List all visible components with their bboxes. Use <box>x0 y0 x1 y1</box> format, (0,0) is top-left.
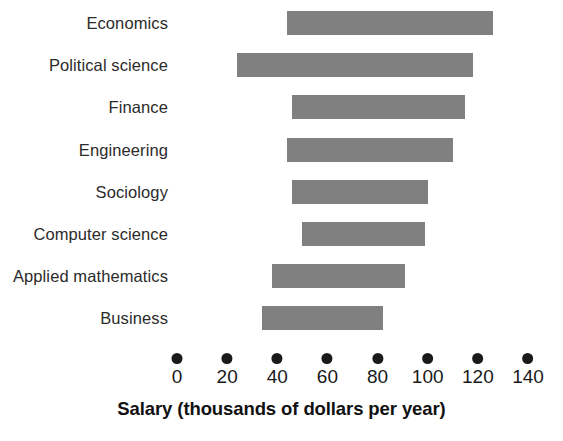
tick-dot-icon <box>522 353 533 364</box>
bar-row: Economics <box>0 2 563 44</box>
bar-row: Applied mathematics <box>0 255 563 297</box>
tick-dot-icon <box>422 353 433 364</box>
bar-business <box>262 306 382 330</box>
tick-dot-icon <box>172 353 183 364</box>
category-label: Finance <box>109 98 168 117</box>
category-label: Business <box>100 309 168 328</box>
x-tick: 140 <box>512 350 544 388</box>
category-label: Engineering <box>79 140 168 159</box>
bar-engineering <box>287 138 452 162</box>
tick-dot-icon <box>222 353 233 364</box>
x-tick: 120 <box>462 350 494 388</box>
category-label: Sociology <box>96 182 168 201</box>
bar-row: Business <box>0 297 563 339</box>
bar-sociology <box>292 180 427 204</box>
x-tick-label: 40 <box>267 366 288 388</box>
x-tick: 40 <box>267 350 288 388</box>
x-tick-label: 140 <box>512 366 544 388</box>
tick-dot-icon <box>372 353 383 364</box>
bar-row: Finance <box>0 86 563 128</box>
x-tick: 80 <box>367 350 388 388</box>
x-tick-label: 80 <box>367 366 388 388</box>
x-tick: 100 <box>412 350 444 388</box>
tick-dot-icon <box>272 353 283 364</box>
category-label: Economics <box>86 14 168 33</box>
x-tick-label: 60 <box>317 366 338 388</box>
bar-finance <box>292 95 465 119</box>
bar-computer-science <box>302 222 425 246</box>
x-axis-title: Salary (thousands of dollars per year) <box>0 398 563 420</box>
bar-row: Sociology <box>0 171 563 213</box>
x-axis: 020406080100120140 <box>0 350 563 395</box>
category-label: Applied mathematics <box>13 267 168 286</box>
tick-dot-icon <box>322 353 333 364</box>
tick-dot-icon <box>472 353 483 364</box>
x-tick: 0 <box>172 350 183 388</box>
x-tick: 20 <box>217 350 238 388</box>
bar-applied-mathematics <box>272 264 405 288</box>
bar-political-science <box>237 53 473 77</box>
bar-row: Engineering <box>0 129 563 171</box>
x-tick-label: 120 <box>462 366 494 388</box>
x-tick: 60 <box>317 350 338 388</box>
plot-area: EconomicsPolitical scienceFinanceEnginee… <box>0 0 563 350</box>
bar-row: Computer science <box>0 213 563 255</box>
bar-row: Political science <box>0 44 563 86</box>
x-tick-label: 20 <box>217 366 238 388</box>
category-label: Political science <box>49 56 168 75</box>
category-label: Computer science <box>33 225 168 244</box>
bar-economics <box>287 11 493 35</box>
salary-range-bar-chart: EconomicsPolitical scienceFinanceEnginee… <box>0 0 563 441</box>
x-tick-label: 0 <box>172 366 183 388</box>
x-tick-label: 100 <box>412 366 444 388</box>
